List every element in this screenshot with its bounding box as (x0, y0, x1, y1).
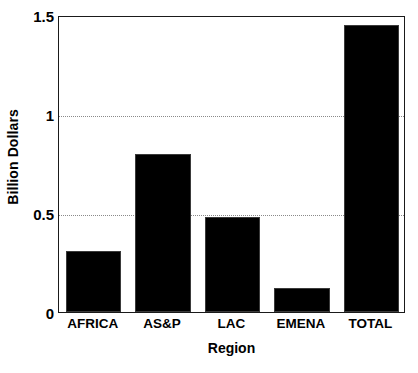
x-axis-tick-labels: AFRICAAS&PLACEMENATOTAL (58, 317, 405, 337)
bar (135, 154, 191, 312)
x-axis-title-text: Region (208, 340, 255, 356)
x-tick-label: AS&P (127, 317, 196, 332)
bar (274, 288, 330, 312)
bars-group (59, 17, 404, 312)
y-tick-label: 1 (8, 108, 54, 123)
x-axis-title: Region (58, 340, 405, 356)
y-axis-tick-labels: 00.511.5 (6, 0, 54, 373)
y-tick-label: 0 (8, 306, 54, 321)
bar (344, 25, 400, 312)
x-tick-label: LAC (197, 317, 266, 332)
bar (66, 251, 122, 312)
x-tick-label: AFRICA (58, 317, 127, 332)
bar-chart: Billion Dollars 00.511.5 AFRICAAS&PLACEM… (0, 0, 418, 373)
x-tick-label: EMENA (266, 317, 335, 332)
y-tick-label: 0.5 (8, 207, 54, 222)
x-tick-label: TOTAL (336, 317, 405, 332)
y-tick-label: 1.5 (8, 9, 54, 24)
bar (205, 217, 261, 312)
plot-area (58, 16, 405, 313)
